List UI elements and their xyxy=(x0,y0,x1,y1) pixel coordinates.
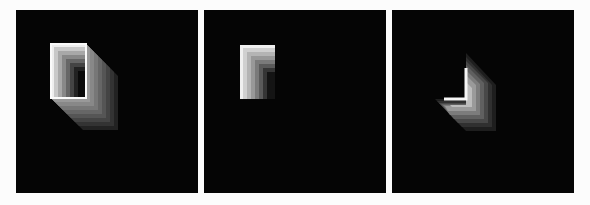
panel-2 xyxy=(204,10,386,193)
panel-3 xyxy=(392,10,574,193)
faded-rectangle-graphic xyxy=(204,10,386,193)
l-shaped-gradient-graphic xyxy=(392,10,574,193)
panel-1 xyxy=(16,10,198,193)
extruded-box-graphic xyxy=(16,10,198,193)
bright-corner-edge xyxy=(444,68,466,99)
